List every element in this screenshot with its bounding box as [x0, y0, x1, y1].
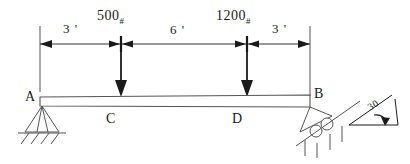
arrowhead-c-right — [122, 41, 133, 48]
arrowhead-right — [298, 40, 310, 48]
arrowhead-left — [40, 40, 52, 48]
load-magnitude-d: 1200 — [216, 8, 246, 23]
load-arrow-c — [115, 36, 127, 97]
arrowhead-c-left — [109, 41, 120, 48]
point-label-b: B — [314, 87, 323, 101]
dim-label-left-span: 3 ' — [63, 22, 78, 35]
arrowhead-d-right — [248, 41, 259, 48]
diagram-vector-layer — [0, 0, 410, 164]
load-label-d: 1200# — [216, 9, 251, 26]
beam-member — [40, 95, 310, 107]
load-unit-c: # — [120, 16, 125, 26]
load-unit-d: # — [246, 16, 251, 26]
dim-label-middle-span: 6 ' — [170, 23, 185, 36]
roller-support-b — [296, 101, 360, 158]
beam-diagram: 3 ' 6 ' 3 ' 500# 1200# A B C D 30 — [0, 0, 410, 164]
dim-label-right-span: 3 ' — [272, 22, 287, 35]
point-label-a: A — [25, 90, 35, 104]
load-arrow-d — [241, 36, 253, 97]
pin-support-a — [18, 106, 66, 144]
point-label-c: C — [106, 112, 115, 126]
load-magnitude-c: 500 — [97, 8, 120, 23]
arrowhead-d-left — [235, 41, 246, 48]
point-label-d: D — [232, 112, 242, 126]
load-label-c: 500# — [97, 9, 125, 26]
